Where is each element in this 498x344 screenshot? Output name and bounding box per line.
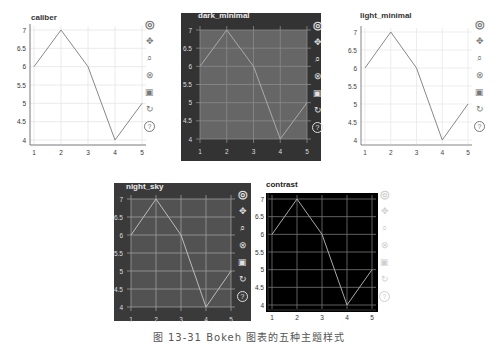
svg-text:4: 4 (119, 304, 123, 311)
chart-title: night_sky (126, 182, 163, 191)
svg-text:2: 2 (295, 314, 299, 321)
svg-text:6.5: 6.5 (183, 45, 192, 52)
svg-text:5: 5 (188, 99, 192, 106)
help-icon[interactable]: ? (474, 121, 485, 132)
svg-text:4: 4 (22, 137, 26, 144)
svg-text:5: 5 (140, 149, 144, 156)
svg-text:2: 2 (154, 316, 158, 323)
svg-text:4: 4 (440, 149, 444, 156)
svg-text:4.5: 4.5 (114, 286, 123, 293)
svg-text:1: 1 (198, 148, 202, 155)
box-zoom-icon[interactable]: ⌕ (312, 54, 323, 65)
chart-toolbar: ◎✥⌕⊗▣↻? (144, 19, 156, 138)
svg-text:5: 5 (229, 316, 233, 323)
svg-text:5: 5 (22, 100, 26, 107)
save-icon[interactable]: ▣ (474, 87, 485, 98)
bokeh-logo-icon[interactable]: ◎ (237, 189, 248, 200)
reset-icon[interactable]: ↻ (237, 274, 248, 285)
bokeh-logo-icon[interactable]: ◎ (474, 19, 485, 30)
help-icon[interactable]: ? (144, 121, 155, 132)
help-icon[interactable]: ? (379, 291, 390, 302)
svg-text:6: 6 (22, 63, 26, 70)
svg-text:5: 5 (260, 266, 264, 273)
svg-text:6: 6 (119, 232, 123, 239)
svg-text:3: 3 (415, 149, 419, 156)
svg-text:7: 7 (119, 196, 123, 203)
svg-text:5.5: 5.5 (255, 249, 264, 256)
reset-icon[interactable]: ↻ (312, 105, 323, 116)
svg-text:7: 7 (188, 27, 192, 34)
svg-text:5: 5 (305, 148, 309, 155)
help-icon[interactable]: ? (312, 122, 323, 133)
chart-svg[interactable]: 44.555.566.5712345 (105, 175, 255, 325)
help-icon[interactable]: ? (237, 291, 248, 302)
svg-text:5.5: 5.5 (183, 81, 192, 88)
svg-text:1: 1 (32, 149, 36, 156)
svg-text:4.5: 4.5 (17, 118, 26, 125)
svg-text:4.5: 4.5 (255, 284, 264, 291)
save-icon[interactable]: ▣ (237, 257, 248, 268)
pan-icon[interactable]: ✥ (144, 36, 155, 47)
svg-text:4: 4 (353, 137, 357, 144)
svg-text:7: 7 (353, 29, 357, 36)
wheel-zoom-icon[interactable]: ⊗ (379, 240, 390, 251)
wheel-zoom-icon[interactable]: ⊗ (312, 71, 323, 82)
pan-icon[interactable]: ✥ (237, 206, 248, 217)
reset-icon[interactable]: ↻ (379, 274, 390, 285)
svg-text:6: 6 (188, 63, 192, 70)
chart-toolbar: ◎✥⌕⊗▣↻? (474, 19, 486, 138)
chart-toolbar: ◎✥⌕⊗▣↻? (237, 189, 249, 308)
svg-text:4: 4 (188, 136, 192, 143)
svg-text:6: 6 (260, 231, 264, 238)
pan-icon[interactable]: ✥ (312, 37, 323, 48)
chart-title: dark_minimal (198, 11, 250, 20)
svg-text:6.5: 6.5 (17, 45, 26, 52)
save-icon[interactable]: ▣ (379, 257, 390, 268)
svg-text:6: 6 (353, 65, 357, 72)
box-zoom-icon[interactable]: ⌕ (237, 223, 248, 234)
chart-panel-dark-minimal: 44.555.566.5712345 dark_minimal ◎✥⌕⊗▣↻? (170, 0, 340, 165)
pan-icon[interactable]: ✥ (379, 206, 390, 217)
svg-text:4: 4 (204, 316, 208, 323)
svg-text:4: 4 (278, 148, 282, 155)
reset-icon[interactable]: ↻ (144, 104, 155, 115)
box-zoom-icon[interactable]: ⌕ (144, 53, 155, 64)
svg-text:1: 1 (363, 149, 367, 156)
svg-text:5: 5 (119, 268, 123, 275)
svg-text:5: 5 (370, 314, 374, 321)
box-zoom-icon[interactable]: ⌕ (379, 223, 390, 234)
svg-text:3: 3 (179, 316, 183, 323)
save-icon[interactable]: ▣ (144, 87, 155, 98)
svg-text:3: 3 (86, 149, 90, 156)
svg-text:2: 2 (225, 148, 229, 155)
bokeh-logo-icon[interactable]: ◎ (312, 20, 323, 31)
chart-toolbar: ◎✥⌕⊗▣↻? (379, 189, 391, 308)
wheel-zoom-icon[interactable]: ⊗ (144, 70, 155, 81)
chart-panel-night-sky: 44.555.566.5712345 night_sky ◎✥⌕⊗▣↻? (105, 175, 255, 325)
reset-icon[interactable]: ↻ (474, 104, 485, 115)
svg-text:3: 3 (252, 148, 256, 155)
bokeh-logo-icon[interactable]: ◎ (379, 189, 390, 200)
svg-text:4.5: 4.5 (348, 119, 357, 126)
wheel-zoom-icon[interactable]: ⊗ (474, 70, 485, 81)
chart-toolbar: ◎✥⌕⊗▣↻? (312, 20, 324, 139)
svg-text:4.5: 4.5 (183, 117, 192, 124)
svg-text:4: 4 (345, 314, 349, 321)
wheel-zoom-icon[interactable]: ⊗ (237, 240, 248, 251)
svg-text:6.5: 6.5 (255, 213, 264, 220)
pan-icon[interactable]: ✥ (474, 36, 485, 47)
svg-text:5.5: 5.5 (17, 82, 26, 89)
svg-text:2: 2 (389, 149, 393, 156)
svg-text:5.5: 5.5 (348, 83, 357, 90)
chart-panel-contrast: 44.555.566.5712345 contrast ◎✥⌕⊗▣↻? (255, 175, 400, 325)
svg-text:2: 2 (59, 149, 63, 156)
save-icon[interactable]: ▣ (312, 88, 323, 99)
figure-caption: 图 13-31 Bokeh 图表的五种主题样式 (0, 329, 498, 344)
bokeh-logo-icon[interactable]: ◎ (144, 19, 155, 30)
svg-text:6.5: 6.5 (348, 47, 357, 54)
svg-text:4: 4 (113, 149, 117, 156)
svg-text:3: 3 (320, 314, 324, 321)
svg-text:7: 7 (260, 196, 264, 203)
svg-text:5: 5 (353, 101, 357, 108)
box-zoom-icon[interactable]: ⌕ (474, 53, 485, 64)
